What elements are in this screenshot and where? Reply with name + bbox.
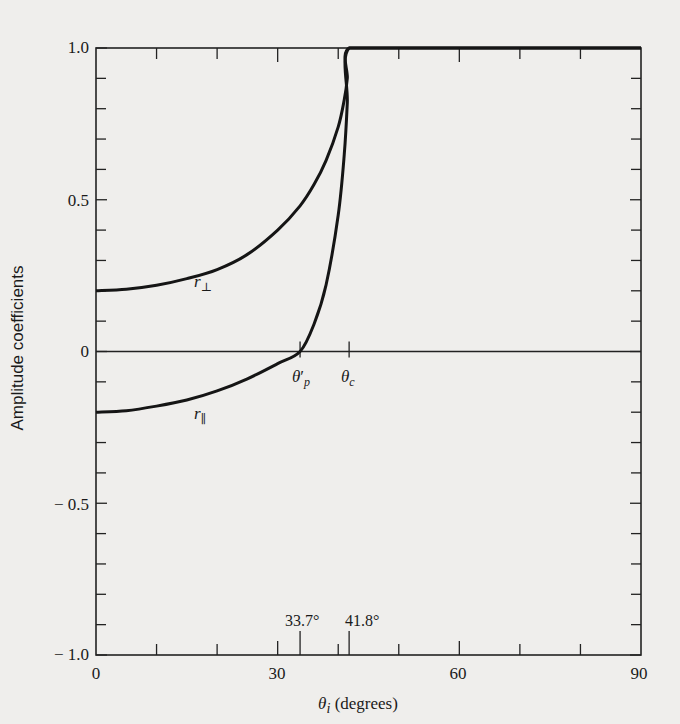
- axes-frame: [96, 48, 641, 655]
- chart: Amplitude coefficients 1.0 0.5 0 − 0.5 −…: [0, 0, 680, 724]
- x-axis-unit: (degrees): [330, 694, 398, 713]
- theta-p-subscript: p: [304, 375, 310, 389]
- y-tick-0: 0: [81, 342, 90, 362]
- theta-c-label: θc: [341, 367, 355, 390]
- curve-r_parallel: [96, 48, 641, 412]
- r-parallel-subscript: ∥: [201, 412, 207, 426]
- r-perp-symbol: r: [194, 272, 201, 291]
- x-axis-label: θi (degrees): [318, 694, 398, 717]
- theta-p-label: θ′p: [292, 367, 310, 390]
- curves: [96, 48, 641, 412]
- x-tick-0: 0: [92, 664, 101, 684]
- y-axis-label: Amplitude coefficients: [8, 265, 28, 430]
- x-tick-60: 60: [450, 664, 467, 684]
- theta-c-subscript: c: [349, 375, 354, 389]
- curve-r_perp: [96, 48, 641, 291]
- y-tick-neg-0.5: − 0.5: [54, 495, 89, 515]
- x-tick-30: 30: [269, 664, 286, 684]
- plot-area: [0, 0, 680, 724]
- x-tick-90: 90: [631, 664, 648, 684]
- r-perp-subscript: ⊥: [201, 280, 212, 294]
- r-perp-label: r⊥: [194, 272, 212, 295]
- r-parallel-symbol: r: [194, 404, 201, 423]
- y-tick-neg-1.0: − 1.0: [54, 645, 89, 665]
- angle-c-value: 41.8°: [345, 612, 379, 630]
- y-tick-1.0: 1.0: [68, 38, 89, 58]
- y-tick-0.5: 0.5: [68, 191, 89, 211]
- angle-p-value: 33.7°: [285, 612, 319, 630]
- r-parallel-label: r∥: [194, 404, 206, 427]
